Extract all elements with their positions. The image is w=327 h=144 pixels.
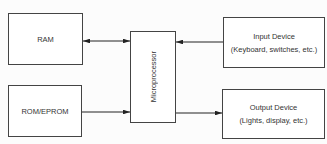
output-device-box: Output Device (Lights, display, etc.)	[222, 89, 325, 139]
block-diagram: RAM ROM/EPROM Microprocessor Input Devic…	[0, 0, 327, 144]
rom-eprom-box: ROM/EPROM	[8, 85, 82, 137]
rom-label: ROM/EPROM	[21, 105, 68, 118]
microprocessor-label: Microprocessor	[147, 51, 160, 102]
output-sublabel: (Lights, display, etc.)	[239, 114, 307, 127]
output-label: Output Device	[250, 101, 298, 114]
microprocessor-box: Microprocessor	[130, 31, 176, 123]
ram-label: RAM	[37, 33, 54, 46]
ram-box: RAM	[8, 13, 83, 65]
input-device-box: Input Device (Keyboard, switches, etc.)	[223, 17, 325, 68]
input-label: Input Device	[253, 30, 295, 43]
input-sublabel: (Keyboard, switches, etc.)	[231, 43, 317, 56]
